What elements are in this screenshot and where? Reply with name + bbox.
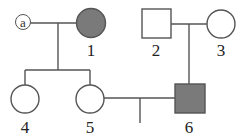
male-affected-icon [175,84,205,113]
individual-3: 3 [207,10,235,60]
female-unaffected-icon [11,85,39,113]
male-unaffected-icon [142,9,171,38]
individual-4: 4 [11,85,39,137]
individual-label-1: 1 [87,41,96,60]
female-unaffected-icon [76,85,104,113]
individual-label-6: 6 [185,118,194,137]
pedigree-chart: a 1 2 3 4 5 6 [0,0,244,139]
individual-6: 6 [175,84,205,137]
individual-label-5: 5 [86,118,95,137]
female-unaffected-icon [207,10,235,38]
individual-2: 2 [142,9,171,60]
individual-1: 1 [77,9,106,61]
individual-label-4: 4 [21,118,30,137]
individual-label-3: 3 [217,41,226,60]
female-affected-icon [77,9,106,38]
individual-label-2: 2 [152,41,161,60]
individual-a: a [16,15,31,30]
individual-label-a: a [20,15,26,30]
individual-5: 5 [76,85,104,137]
